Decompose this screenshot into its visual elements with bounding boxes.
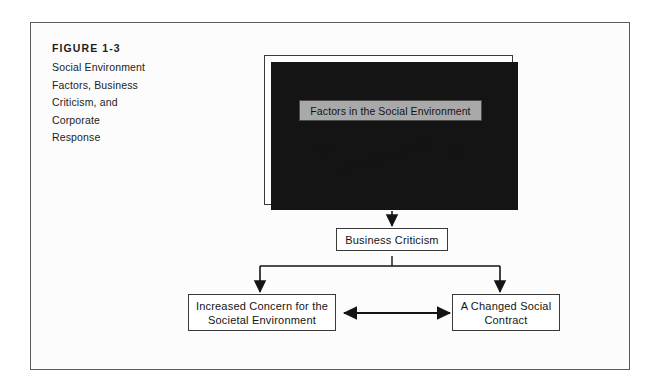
inner-connector-lines — [265, 56, 514, 206]
social-environment-container-box[interactable]: Affluence Awareness Education Factors in… — [264, 55, 513, 205]
figure-page: FIGURE 1-3 Social Environment Factors, B… — [0, 0, 658, 391]
flowchart-diagram: Affluence Awareness Education Factors in… — [0, 0, 658, 391]
edge-entitlement-to-rights-movement — [343, 145, 431, 169]
